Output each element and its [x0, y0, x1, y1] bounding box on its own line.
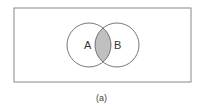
set-a-label: A: [84, 39, 92, 51]
venn-diagram: A B (a): [0, 0, 204, 109]
set-b-label: B: [114, 39, 121, 51]
caption: (a): [96, 93, 107, 103]
